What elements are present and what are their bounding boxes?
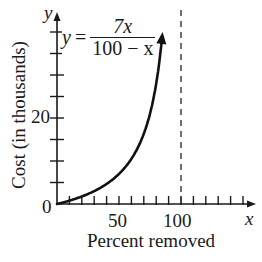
curve-arrow-icon bbox=[156, 32, 166, 44]
equation-numerator: 7x bbox=[111, 16, 134, 37]
x-tick-label-100: 100 bbox=[163, 210, 192, 232]
x-axis-arrow-icon bbox=[247, 201, 256, 208]
x-axis-variable: x bbox=[245, 208, 253, 230]
equation-lhs: y bbox=[62, 26, 71, 49]
x-tick-label-50: 50 bbox=[108, 210, 127, 232]
equation-label: y = 7x 100 − x bbox=[62, 16, 155, 59]
equation-equals: = bbox=[75, 26, 86, 49]
function-curve bbox=[57, 40, 162, 204]
x-axis-label: Percent removed bbox=[58, 230, 244, 252]
y-axis-arrow-icon bbox=[54, 12, 61, 21]
y-tick-label-20: 20 bbox=[31, 106, 50, 128]
y-axis-variable: y bbox=[44, 2, 52, 24]
y-axis-label: Cost (in thousands) bbox=[8, 30, 30, 200]
equation-denominator: 100 − x bbox=[90, 37, 155, 59]
equation-fraction: 7x 100 − x bbox=[90, 16, 155, 59]
origin-label: 0 bbox=[42, 196, 52, 218]
